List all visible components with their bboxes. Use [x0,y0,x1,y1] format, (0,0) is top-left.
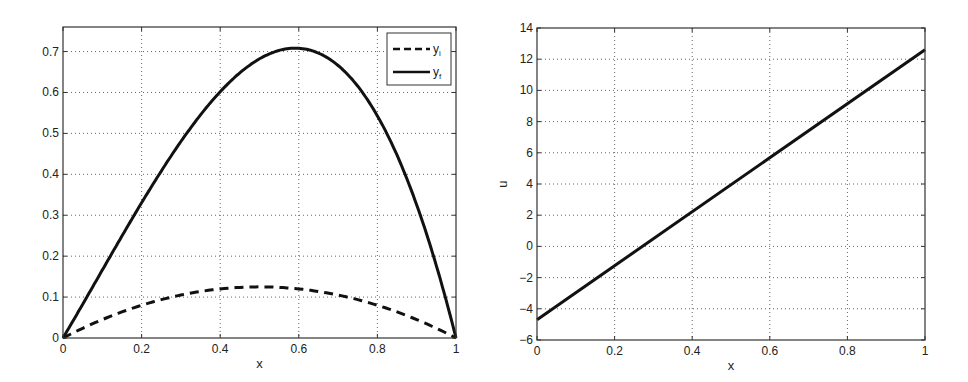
y-tick-label: 0.6 [42,85,59,99]
y-tick-label: 14 [520,21,534,35]
y-axis-label: u [495,180,510,187]
subscript: i [439,49,441,58]
y-tick-label: 0.2 [42,249,59,263]
y-tick-label: −2 [519,271,533,285]
legend: yiyf [387,33,451,85]
plot-2: 00.20.40.60.81−6−4−202468101214xu [495,21,929,373]
x-tick-label: 0 [60,342,67,356]
y-tick-label: −6 [519,333,533,347]
y-tick-label: 8 [526,115,533,129]
x-tick-label: 0.2 [133,342,150,356]
y-tick-label: 0 [52,331,59,345]
y-tick-label: 10 [520,83,534,97]
x-tick-label: 0.4 [212,342,229,356]
x-tick-label: 0.6 [290,342,307,356]
y-tick-label: 2 [526,208,533,222]
y-tick-label: −4 [519,302,533,316]
y-tick-label: 0.3 [42,208,59,222]
series-y-f [63,48,456,338]
x-tick-label: 0.4 [684,344,701,358]
legend-box [387,33,451,85]
figure: 00.20.40.60.8100.10.20.30.40.50.60.7xyiy… [0,0,968,382]
plot-1: 00.20.40.60.8100.10.20.30.40.50.60.7xyiy… [42,27,459,371]
x-axis-label: x [256,356,263,371]
x-tick-label: 0.8 [839,344,856,358]
x-axis-label: x [728,358,735,373]
series-u [537,50,925,320]
y-tick-label: 0.1 [42,290,59,304]
y-tick-label: 12 [520,52,534,66]
y-tick-label: 0.4 [42,167,59,181]
x-tick-label: 0.2 [606,344,623,358]
y-tick-label: 0.5 [42,126,59,140]
y-tick-label: 4 [526,177,533,191]
x-tick-label: 0.6 [761,344,778,358]
y-tick-label: 0.7 [42,45,59,59]
y-tick-label: 6 [526,146,533,160]
series-y-i [63,287,456,338]
y-tick-label: 0 [526,239,533,253]
x-tick-label: 1 [922,344,929,358]
x-tick-label: 0.8 [369,342,386,356]
x-tick-label: 1 [453,342,460,356]
x-tick-label: 0 [534,344,541,358]
